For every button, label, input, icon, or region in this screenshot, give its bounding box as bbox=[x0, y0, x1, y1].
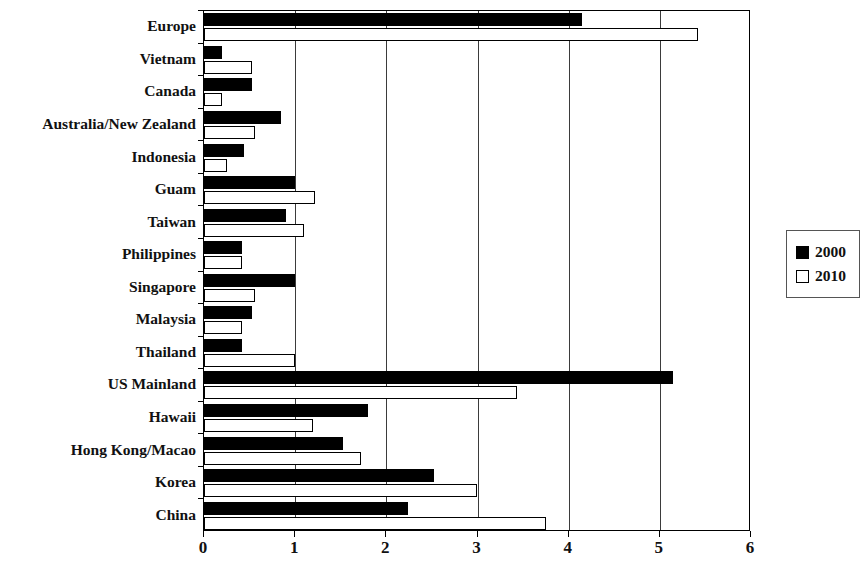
bar-2010 bbox=[204, 321, 242, 334]
x-axis-tick bbox=[294, 531, 295, 537]
y-axis-label: Korea bbox=[7, 474, 203, 490]
bar-2010 bbox=[204, 289, 255, 302]
bar-2000 bbox=[204, 339, 242, 352]
bar-chart: EuropeVietnamCanadaAustralia/New Zealand… bbox=[0, 0, 862, 564]
bar-2000 bbox=[204, 274, 295, 287]
bar-group bbox=[204, 174, 749, 207]
y-axis-tick bbox=[198, 10, 203, 11]
y-axis-tick bbox=[198, 336, 203, 337]
y-axis-tick bbox=[198, 238, 203, 239]
legend-item: 2000 bbox=[796, 240, 852, 264]
bar-group bbox=[204, 467, 749, 500]
bar-2000 bbox=[204, 176, 295, 189]
bar-2000 bbox=[204, 241, 242, 254]
bar-group bbox=[204, 272, 749, 305]
y-axis-label: China bbox=[7, 507, 203, 523]
x-axis-tick-label: 6 bbox=[730, 538, 770, 558]
y-axis-label: Guam bbox=[7, 181, 203, 197]
bar-2010 bbox=[204, 256, 242, 269]
bar-2010 bbox=[204, 452, 361, 465]
bar-2010 bbox=[204, 126, 255, 139]
y-axis-label: Vietnam bbox=[7, 51, 203, 67]
bar-2000 bbox=[204, 404, 368, 417]
bar-group bbox=[204, 304, 749, 337]
bar-2010 bbox=[204, 517, 546, 530]
bar-group bbox=[204, 109, 749, 142]
bar-group bbox=[204, 337, 749, 370]
y-axis-tick bbox=[198, 43, 203, 44]
bar-group bbox=[204, 44, 749, 77]
y-axis-label: Australia/New Zealand bbox=[7, 116, 203, 132]
bar-group bbox=[204, 206, 749, 239]
bar-group bbox=[204, 76, 749, 109]
y-axis-tick bbox=[198, 303, 203, 304]
bar-spacer bbox=[204, 254, 749, 256]
x-axis-tick bbox=[477, 531, 478, 537]
bar-2010 bbox=[204, 386, 517, 399]
y-axis-label: Hawaii bbox=[7, 409, 203, 425]
y-axis-label: US Mainland bbox=[7, 376, 203, 392]
bar-2000 bbox=[204, 469, 434, 482]
bar-rows bbox=[204, 11, 749, 530]
y-axis-tick bbox=[198, 401, 203, 402]
bar-2010 bbox=[204, 61, 252, 74]
x-axis-tick-label: 4 bbox=[548, 538, 588, 558]
y-axis-label: Canada bbox=[7, 83, 203, 99]
y-axis-tick bbox=[198, 368, 203, 369]
bar-2000 bbox=[204, 78, 252, 91]
bar-2000 bbox=[204, 111, 281, 124]
bar-2000 bbox=[204, 209, 286, 222]
open-square-icon bbox=[796, 270, 809, 283]
y-axis-tick bbox=[198, 75, 203, 76]
bar-2010 bbox=[204, 484, 477, 497]
bar-group bbox=[204, 434, 749, 467]
bar-group bbox=[204, 499, 749, 532]
bar-group bbox=[204, 11, 749, 44]
bar-spacer bbox=[204, 59, 749, 61]
y-axis-tick bbox=[198, 433, 203, 434]
bar-2010 bbox=[204, 93, 222, 106]
y-axis-label: Hong Kong/Macao bbox=[7, 442, 203, 458]
bar-2000 bbox=[204, 502, 408, 515]
y-axis-label: Philippines bbox=[7, 246, 203, 262]
x-axis-tick-label: 0 bbox=[183, 538, 223, 558]
bar-2010 bbox=[204, 224, 304, 237]
y-axis-tick bbox=[198, 271, 203, 272]
y-axis-label: Thailand bbox=[7, 344, 203, 360]
chart-legend: 20002010 bbox=[786, 230, 860, 298]
bar-group bbox=[204, 141, 749, 174]
y-axis-tick bbox=[198, 466, 203, 467]
bar-spacer bbox=[204, 287, 749, 289]
bar-2010 bbox=[204, 419, 313, 432]
filled-square-icon bbox=[796, 246, 809, 259]
x-axis-tick-label: 2 bbox=[365, 538, 405, 558]
y-axis-tick bbox=[198, 140, 203, 141]
x-axis-tick-label: 1 bbox=[274, 538, 314, 558]
bar-spacer bbox=[204, 319, 749, 321]
bar-2010 bbox=[204, 354, 295, 367]
y-axis-label: Malaysia bbox=[7, 311, 203, 327]
legend-item: 2010 bbox=[796, 264, 852, 288]
x-axis-tick bbox=[750, 531, 751, 537]
bar-2000 bbox=[204, 371, 673, 384]
legend-label: 2010 bbox=[815, 267, 846, 285]
legend-label: 2000 bbox=[815, 243, 846, 261]
x-axis-tick bbox=[568, 531, 569, 537]
plot-area bbox=[203, 10, 750, 531]
bar-spacer bbox=[204, 124, 749, 126]
bar-2010 bbox=[204, 159, 227, 172]
y-axis-label: Europe bbox=[7, 18, 203, 34]
bar-group bbox=[204, 369, 749, 402]
bar-2000 bbox=[204, 306, 252, 319]
bar-group bbox=[204, 402, 749, 435]
x-axis-tick bbox=[385, 531, 386, 537]
bar-2000 bbox=[204, 13, 582, 26]
x-axis-tick bbox=[659, 531, 660, 537]
y-axis-tick bbox=[198, 173, 203, 174]
x-axis-tick-label: 3 bbox=[457, 538, 497, 558]
y-axis-label: Taiwan bbox=[7, 214, 203, 230]
bar-2010 bbox=[204, 28, 698, 41]
bar-2000 bbox=[204, 144, 244, 157]
x-axis-tick-label: 5 bbox=[639, 538, 679, 558]
y-axis-label: Singapore bbox=[7, 279, 203, 295]
